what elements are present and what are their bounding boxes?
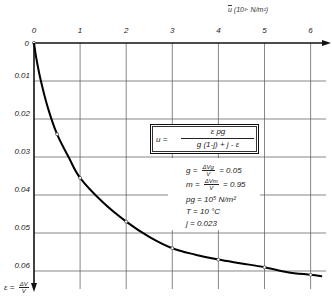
param-g-numerator: ΔVg xyxy=(202,164,215,171)
y-axis-symbol: ε = xyxy=(4,283,14,292)
y-axis-label: ε = ΔV V xyxy=(4,281,31,294)
y-tick-label: 0.03 xyxy=(14,147,30,156)
x-axis-label: u (10³· N/m²) xyxy=(228,6,268,13)
param-j: j = 0.023 xyxy=(186,217,217,230)
x-axis-unit: (10³· N/m²) xyxy=(234,6,268,13)
data-point xyxy=(79,176,82,179)
y-tick-label: 0 xyxy=(25,39,30,48)
param-g: g = ΔVg V = 0.05 xyxy=(186,164,242,177)
data-point xyxy=(217,258,220,261)
x-tick-label: 1 xyxy=(78,26,82,35)
y-axis-fraction: ΔV V xyxy=(19,281,29,294)
param-g-symbol: g = xyxy=(186,166,197,175)
formula-numerator: ε pg xyxy=(181,127,255,136)
param-m: m = ΔVm V = 0.95 xyxy=(186,178,246,191)
param-m-denominator: V xyxy=(204,185,219,191)
y-tick-label: 0.06 xyxy=(14,261,30,270)
y-tick-label: 0.04 xyxy=(14,185,30,194)
param-m-symbol: m = xyxy=(186,180,200,189)
formula-box: u = ε pg g (1-j) + j - ε xyxy=(150,124,259,154)
param-g-fraction: ΔVg V xyxy=(202,164,215,177)
y-tick-label: 0.02 xyxy=(14,109,30,118)
data-point xyxy=(263,266,266,269)
x-axis-arrow-icon xyxy=(322,40,331,46)
data-point xyxy=(56,133,59,136)
parameter-block: g = ΔVg V = 0.05 m = ΔVm V = 0.95 pg = 1… xyxy=(168,158,260,230)
y-tick-label: 0.01 xyxy=(14,71,30,80)
y-axis-arrow-icon xyxy=(31,283,37,292)
data-point xyxy=(309,273,312,276)
x-tick-label: 0 xyxy=(32,26,37,35)
param-g-denominator: V xyxy=(202,171,215,177)
y-axis-fraction-denominator: V xyxy=(19,288,29,294)
param-m-numerator: ΔVm xyxy=(204,178,219,185)
x-tick-label: 5 xyxy=(262,26,267,35)
param-g-value: = 0.05 xyxy=(219,166,241,175)
x-axis-symbol: u xyxy=(228,6,232,13)
x-tick-label: 4 xyxy=(216,26,221,35)
param-m-fraction: ΔVm V xyxy=(204,178,219,191)
formula-denominator: g (1-j) + j - ε xyxy=(181,140,255,149)
data-point xyxy=(171,247,174,250)
formula-fraction-bar xyxy=(181,138,254,139)
param-m-value: = 0.95 xyxy=(223,180,245,189)
data-point xyxy=(125,220,128,223)
x-tick-label: 6 xyxy=(308,26,313,35)
x-tick-label: 2 xyxy=(123,26,129,35)
y-tick-label: 0.05 xyxy=(14,223,30,232)
formula-lhs: u = xyxy=(156,135,167,144)
y-axis-fraction-numerator: ΔV xyxy=(19,281,29,288)
x-tick-label: 3 xyxy=(170,26,175,35)
